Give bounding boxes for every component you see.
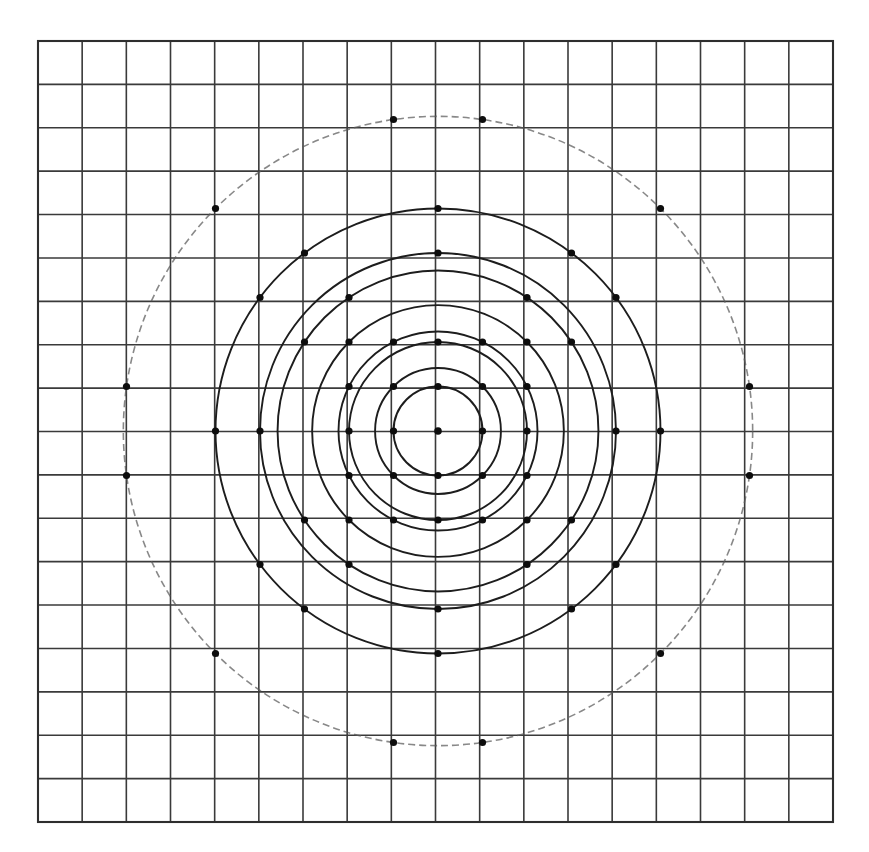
lattice-point (345, 472, 352, 479)
lattice-point-layer (123, 116, 753, 746)
lattice-point (523, 472, 530, 479)
lattice-point (256, 561, 263, 568)
lattice-point (479, 427, 486, 434)
lattice-point (434, 383, 441, 390)
lattice-point (390, 338, 397, 345)
lattice-point (434, 472, 441, 479)
lattice-point (390, 427, 397, 434)
lattice-point (523, 561, 530, 568)
lattice-point (123, 472, 130, 479)
lattice-point (212, 205, 219, 212)
lattice-point (256, 294, 263, 301)
lattice-point (301, 516, 308, 523)
lattice-point (523, 294, 530, 301)
lattice-point (212, 650, 219, 657)
lattice-point (345, 294, 352, 301)
lattice-point (479, 383, 486, 390)
lattice-point (390, 383, 397, 390)
lattice-point (612, 427, 619, 434)
lattice-point (345, 338, 352, 345)
lattice-point (479, 338, 486, 345)
lattice-point (479, 472, 486, 479)
lattice-point (612, 294, 619, 301)
lattice-point (523, 516, 530, 523)
lattice-point (212, 427, 219, 434)
lattice-point (479, 739, 486, 746)
lattice-point (568, 338, 575, 345)
figure-root: p gg g pp g (0, 0, 869, 852)
lattice-point (568, 516, 575, 523)
lattice-point (390, 739, 397, 746)
lattice-point (612, 561, 619, 568)
lattice-point (746, 472, 753, 479)
lattice-point (657, 427, 664, 434)
lattice-point (746, 383, 753, 390)
lattice-point (345, 427, 352, 434)
lattice-point (301, 605, 308, 612)
lattice-point (434, 605, 441, 612)
lattice-point (479, 516, 486, 523)
lattice-point (657, 205, 664, 212)
lattice-point (390, 472, 397, 479)
lattice-point (479, 116, 486, 123)
lattice-point (434, 338, 441, 345)
lattice-point (434, 650, 441, 657)
lattice-point (523, 383, 530, 390)
lattice-point (301, 249, 308, 256)
lattice-point (390, 116, 397, 123)
lattice-point (345, 383, 352, 390)
lattice-point (657, 650, 664, 657)
lattice-point (434, 516, 441, 523)
center-point (434, 427, 442, 435)
lattice-point (123, 383, 130, 390)
lattice-point (345, 516, 352, 523)
lattice-point (434, 205, 441, 212)
lattice-point (568, 605, 575, 612)
lattice-point (256, 427, 263, 434)
lattice-point (434, 249, 441, 256)
lattice-point (301, 338, 308, 345)
lattice-point (345, 561, 352, 568)
lattice-point (523, 427, 530, 434)
lattice-point (568, 249, 575, 256)
lattice-point (390, 516, 397, 523)
lattice-point (523, 338, 530, 345)
lattice-circles-diagram (0, 0, 869, 852)
